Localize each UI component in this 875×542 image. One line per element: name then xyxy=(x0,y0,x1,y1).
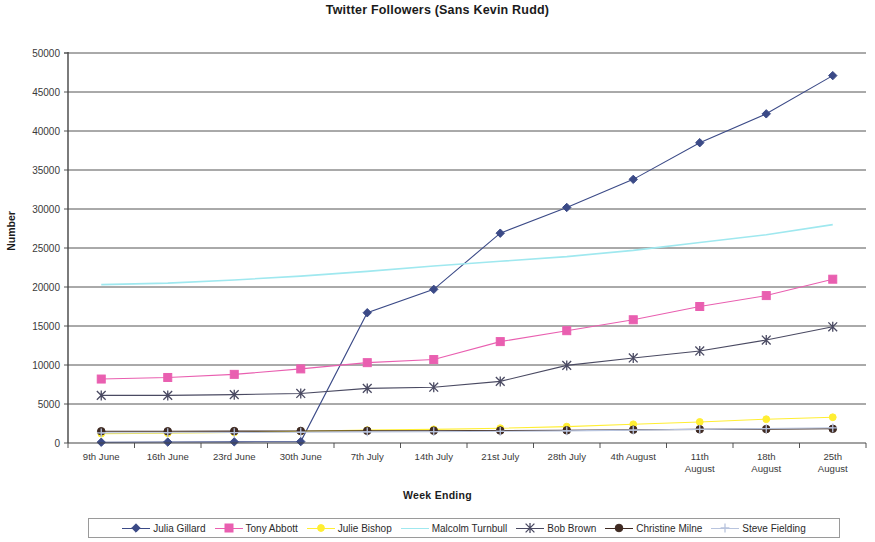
x-axis-tick-label: 4th August xyxy=(611,451,657,462)
x-axis-tick-label: 18thAugust xyxy=(751,451,781,474)
plot-area: 0500010000150002000025000300003500040000… xyxy=(0,0,875,500)
y-axis-tick-label: 15000 xyxy=(32,321,60,332)
series-christine-milne xyxy=(97,425,836,435)
chart-legend: Julia GillardTony AbbottJulie BishopMalc… xyxy=(88,518,840,538)
data-point-marker xyxy=(225,524,233,532)
data-point-marker xyxy=(829,71,837,79)
series-julie-bishop xyxy=(98,414,836,437)
data-point-marker xyxy=(97,438,105,446)
legend-key-icon xyxy=(711,522,739,534)
legend-key-icon xyxy=(401,522,429,534)
y-axis-tick-label: 20000 xyxy=(32,282,60,293)
legend-key-icon xyxy=(516,522,544,534)
data-point-marker xyxy=(696,139,704,147)
data-point-marker xyxy=(496,338,504,346)
y-axis-tick-label: 5000 xyxy=(38,399,61,410)
legend-item-malcolm-turnbull[interactable]: Malcolm Turnbull xyxy=(401,522,508,534)
x-axis-tick-label: 11thAugust xyxy=(685,451,715,474)
data-point-marker xyxy=(563,203,571,211)
legend-key-icon xyxy=(605,522,633,534)
data-point-marker xyxy=(829,414,836,421)
series-line xyxy=(101,225,833,285)
data-point-marker xyxy=(363,309,371,317)
data-point-marker xyxy=(317,525,324,532)
y-axis-tick-label: 0 xyxy=(54,438,60,449)
data-point-marker xyxy=(430,356,438,364)
legend-item-label: Christine Milne xyxy=(635,523,702,534)
chart-container: Twitter Followers (Sans Kevin Rudd) Numb… xyxy=(0,0,875,542)
legend-item-label: Bob Brown xyxy=(546,523,596,534)
y-axis-tick-labels: 0500010000150002000025000300003500040000… xyxy=(32,48,60,449)
data-point-marker xyxy=(763,416,770,423)
legend-item-steve-fielding[interactable]: Steve Fielding xyxy=(711,522,805,534)
x-axis-tick-label: 14th July xyxy=(415,451,454,462)
data-point-marker xyxy=(629,316,637,324)
data-point-marker xyxy=(615,524,623,532)
x-axis-tick-labels: 9th June16th June23rd June30th June7th J… xyxy=(83,451,848,474)
legend-item-label: Tony Abbott xyxy=(245,523,298,534)
data-point-marker xyxy=(526,523,535,533)
series-malcolm-turnbull xyxy=(101,225,833,285)
data-point-marker xyxy=(721,524,730,533)
data-point-marker xyxy=(696,419,703,426)
x-axis-tick-label: 21st July xyxy=(481,451,519,462)
data-point-marker xyxy=(828,322,837,332)
series-line xyxy=(101,327,833,396)
x-axis-tick-label: 16th June xyxy=(147,451,189,462)
legend-item-julia-gillard[interactable]: Julia Gillard xyxy=(122,522,205,534)
series-tony-abbott xyxy=(97,275,837,383)
x-axis-tick-label: 23rd June xyxy=(213,451,256,462)
series-line xyxy=(101,279,833,379)
legend-item-label: Steve Fielding xyxy=(741,523,805,534)
legend-item-label: Julia Gillard xyxy=(152,523,205,534)
data-point-marker xyxy=(164,373,172,381)
data-point-marker xyxy=(297,365,305,373)
legend-item-label: Malcolm Turnbull xyxy=(431,523,508,534)
y-axis-tick-label: 50000 xyxy=(32,48,60,59)
y-axis-tick-label: 30000 xyxy=(32,204,60,215)
x-axis-ticks xyxy=(68,443,866,448)
data-point-marker xyxy=(629,175,637,183)
legend-key-icon xyxy=(307,522,335,534)
y-axis-tick-label: 10000 xyxy=(32,360,60,371)
x-axis-tick-label: 28th July xyxy=(548,451,587,462)
y-axis-tick-label: 35000 xyxy=(32,165,60,176)
legend-item-tony-abbott[interactable]: Tony Abbott xyxy=(215,522,298,534)
series-julia-gillard xyxy=(97,71,837,446)
data-point-marker xyxy=(696,303,704,311)
data-point-marker xyxy=(297,437,305,445)
data-point-marker xyxy=(829,275,837,283)
y-axis-tick-label: 40000 xyxy=(32,126,60,137)
data-point-marker xyxy=(363,359,371,367)
x-axis-tick-label: 25thAugust xyxy=(818,451,848,474)
x-axis-tick-label: 30th June xyxy=(280,451,322,462)
data-series xyxy=(97,71,837,446)
y-axis-tick-label: 25000 xyxy=(32,243,60,254)
x-axis-tick-label: 9th June xyxy=(83,451,120,462)
legend-item-julie-bishop[interactable]: Julie Bishop xyxy=(307,522,392,534)
x-axis-tick-label: 7th July xyxy=(351,451,384,462)
data-point-marker xyxy=(230,370,238,378)
legend-key-icon xyxy=(215,522,243,534)
data-point-marker xyxy=(230,438,238,446)
data-point-marker xyxy=(762,110,770,118)
data-point-marker xyxy=(164,438,172,446)
data-point-marker xyxy=(563,327,571,335)
y-axis-tick-label: 45000 xyxy=(32,87,60,98)
data-point-marker xyxy=(132,524,140,532)
data-point-marker xyxy=(762,292,770,300)
data-point-marker xyxy=(97,375,105,383)
data-point-marker xyxy=(695,425,704,434)
series-bob-brown xyxy=(97,322,837,401)
legend-item-label: Julie Bishop xyxy=(337,523,392,534)
legend-key-icon xyxy=(122,522,150,534)
legend-item-bob-brown[interactable]: Bob Brown xyxy=(516,522,596,534)
legend-item-christine-milne[interactable]: Christine Milne xyxy=(605,522,702,534)
